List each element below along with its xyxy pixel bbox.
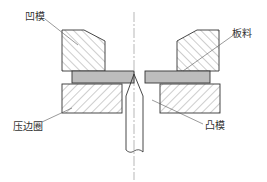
label-sheet: 板料 — [232, 28, 252, 40]
label-blank-holder: 压边圈 — [13, 121, 43, 133]
punch — [126, 74, 143, 152]
punch-break — [126, 150, 143, 153]
leader-blank-holder — [42, 108, 72, 122]
diagram-canvas — [0, 0, 267, 182]
blank-holder-right — [160, 84, 220, 113]
sheet-left — [72, 71, 134, 83]
sheet-right — [145, 71, 210, 83]
label-die: 凹模 — [25, 11, 45, 23]
die-right — [177, 30, 219, 71]
label-punch: 凸模 — [205, 120, 225, 132]
die-left — [62, 30, 105, 71]
